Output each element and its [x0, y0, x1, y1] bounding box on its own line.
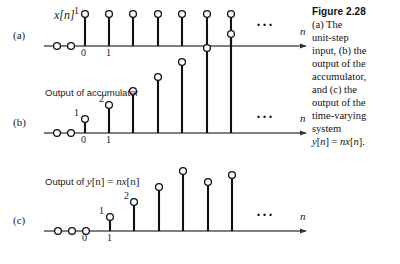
- panel-a-amplitude-label-1: 1: [74, 5, 79, 16]
- panel-b-amplitude-label-1: 1: [74, 107, 79, 118]
- panel-c-marker: [205, 179, 212, 186]
- panel-a-marker: [106, 11, 113, 18]
- panel-b-marker: [228, 31, 235, 38]
- panel-c-tick-0: 0: [82, 232, 87, 243]
- panel-a-marker: [179, 11, 186, 18]
- panel-b-signal-label: Output of accumulator: [45, 87, 138, 98]
- panel-c-ellipsis: ···: [256, 208, 274, 223]
- panel-c-marker-zero: [55, 228, 62, 235]
- caption-line: output of the: [312, 96, 398, 109]
- figure-2-28: (a) x[n] 1 0 1 ··· n (b) Output of accum…: [0, 0, 400, 264]
- panel-b-marker: [155, 74, 162, 81]
- panel-a-letter: (a): [13, 29, 25, 41]
- caption-line: and (c) the: [312, 83, 398, 96]
- panel-b-tick-0: 0: [81, 134, 86, 145]
- caption-line: time-varying: [312, 109, 398, 122]
- panel-b-marker: [82, 116, 89, 123]
- panel-b-tick-1: 1: [106, 134, 111, 145]
- caption-line: system: [312, 122, 398, 135]
- panel-a-signal-label: x[n]: [54, 8, 75, 23]
- caption-line: unit-step: [312, 31, 398, 44]
- panel-a-marker: [130, 11, 137, 18]
- panel-c-signal-label: Output of y[n] = nx[n]: [45, 175, 139, 187]
- figure-caption-text: (a) The unit-step input, (b) the output …: [312, 18, 398, 148]
- panel-c-amplitude-label-2: 2: [124, 190, 129, 201]
- panel-b-marker: [204, 45, 211, 52]
- panel-c-signal-label-idx1: [n]: [92, 175, 105, 187]
- panel-c-marker: [156, 184, 163, 191]
- panel-a-marker-zero: [54, 43, 61, 50]
- figure-caption-block: Figure 2.28 (a) The unit-step input, (b)…: [312, 5, 398, 148]
- panel-c-signal-label-prefix: Output of: [45, 176, 87, 187]
- panel-c-marker-zero: [69, 228, 76, 235]
- panel-a-marker: [228, 11, 235, 18]
- caption-line-formula: y[n] = nx[n].: [312, 135, 398, 148]
- panel-b-axis-label: n: [300, 112, 306, 124]
- panel-b-marker: [179, 59, 186, 66]
- panel-c-marker: [131, 199, 138, 206]
- panel-c-letter: (c): [13, 214, 25, 226]
- panel-b-marker-zero: [54, 130, 61, 137]
- panel-a-tick-0: 0: [81, 47, 86, 58]
- panel-a-marker: [155, 11, 162, 18]
- panel-b-marker: [106, 102, 113, 109]
- panel-b-amplitude-label-2: 2: [99, 93, 104, 104]
- caption-line: accumulator,: [312, 70, 398, 83]
- panel-b-marker-zero: [68, 130, 75, 137]
- panel-b-letter: (b): [13, 116, 26, 128]
- panel-c-signal-label-nx: nx: [116, 175, 126, 187]
- panel-c-marker: [107, 214, 114, 221]
- panel-c-amplitude-label-1: 1: [99, 205, 104, 216]
- panel-a-marker-zero: [68, 43, 75, 50]
- panel-a-ellipsis: ···: [256, 18, 274, 33]
- panel-c-signal-label-eq: =: [104, 175, 116, 187]
- panel-a-marker: [82, 11, 89, 18]
- panel-c-axis-label: n: [300, 210, 306, 222]
- panel-b-ellipsis: ···: [256, 110, 274, 125]
- caption-line: (a) The: [312, 18, 398, 31]
- panel-a-axis-label: n: [300, 25, 306, 37]
- panel-c-tick-1: 1: [107, 232, 112, 243]
- panel-a-tick-1: 1: [106, 47, 111, 58]
- figure-caption-title: Figure 2.28: [312, 5, 398, 18]
- panel-c-signal-label-idx2: [n]: [127, 175, 140, 187]
- caption-line: input, (b) the: [312, 44, 398, 57]
- panel-a-marker: [204, 11, 211, 18]
- panel-c-marker: [180, 168, 187, 175]
- caption-line: output of the: [312, 57, 398, 70]
- panel-c-marker: [229, 172, 236, 179]
